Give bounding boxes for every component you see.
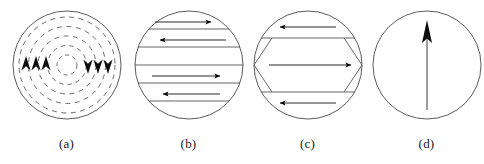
figure-root: (a) xyxy=(0,0,484,164)
panel-d-label: (d) xyxy=(366,136,484,152)
panel-b: (b) xyxy=(128,0,249,164)
arrowhead-down-3 xyxy=(103,60,112,75)
panel-b-diagram xyxy=(128,0,249,132)
closure-diagonal-lower-right xyxy=(344,65,362,92)
panel-c-label: (c) xyxy=(247,136,368,152)
closure-diagonal-lower-left xyxy=(254,65,272,92)
dashed-ring-4 xyxy=(48,46,87,85)
panel-d-diagram xyxy=(366,0,484,132)
closure-diagonal-upper-right xyxy=(344,38,362,65)
arrowhead-down-2 xyxy=(93,60,102,75)
outer-circle xyxy=(13,11,121,119)
arrowhead-down-1 xyxy=(83,60,92,75)
arrowhead-group-up xyxy=(21,56,50,71)
panel-c-diagram xyxy=(247,0,368,132)
arrowhead-group-down xyxy=(83,60,112,75)
panel-a-label: (a) xyxy=(6,136,127,152)
closure-diagonal-upper-left xyxy=(254,38,272,65)
panel-c: (c) xyxy=(247,0,368,164)
panel-a: (a) xyxy=(6,0,127,164)
dashed-ring-2 xyxy=(29,27,106,104)
panel-d: (d) xyxy=(366,0,484,164)
arrowhead-up-3 xyxy=(41,56,50,71)
panel-a-diagram xyxy=(6,0,127,132)
panel-b-label: (b) xyxy=(128,136,249,152)
dashed-ring-5 xyxy=(57,55,77,75)
